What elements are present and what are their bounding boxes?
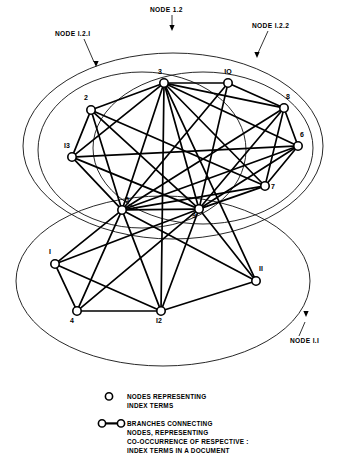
legend-branch-glyph-node-1 <box>98 420 105 427</box>
diagram-canvas: NODE 1.2NODE I.2.INODE I.2.2NODE I.I I23… <box>0 0 346 465</box>
node-4[interactable] <box>73 307 81 315</box>
edge-2-13 <box>74 114 90 153</box>
legend-text-legend-node-1: NODES REPRESENTING <box>127 393 206 400</box>
node-10[interactable] <box>224 79 232 87</box>
callout-label-node-1-2-2: NODE I.2.2 <box>252 22 289 29</box>
node-label-10: IO <box>224 68 232 75</box>
legend-text-legend-branch-1: BRANCHES CONNECTING <box>127 420 213 427</box>
edge-12-11 <box>165 282 252 309</box>
edge-6-13 <box>76 146 294 157</box>
node-3[interactable] <box>160 79 168 87</box>
graph-edges <box>57 83 297 311</box>
edge-13-9 <box>76 159 195 208</box>
edge-6-9 <box>203 148 295 206</box>
edge-6-5 <box>126 147 294 208</box>
legend-text-legend-branch-3: CO-OCCURRENCE OF RESPECTIVE : <box>127 438 249 445</box>
legend-branch-glyph-node-2 <box>117 420 124 427</box>
node-label-9: 9 <box>192 212 196 219</box>
node-label-2: 2 <box>84 94 88 101</box>
legend-text-legend-node-2: INDEX TERMS <box>127 402 174 409</box>
node-label-12: I2 <box>156 317 162 324</box>
node-9[interactable] <box>195 205 203 213</box>
edge-9-12 <box>162 213 197 307</box>
callout-label-node-1-2-1: NODE I.2.I <box>55 30 90 37</box>
node-label-1: I <box>49 248 51 255</box>
callout-label-node-1-1: NODE I.I <box>290 337 319 344</box>
node-label-8: 8 <box>286 93 290 100</box>
edge-8-9 <box>202 111 282 206</box>
edge-1-4 <box>57 268 75 307</box>
legend-text-legend-branch-4: INDEX TERMS IN A DOCUMENT <box>127 447 230 454</box>
edge-2-3 <box>95 84 160 108</box>
legend-node-glyph <box>105 393 112 400</box>
node-label-11: II <box>259 265 263 272</box>
edge-10-5 <box>125 86 226 207</box>
node-11[interactable] <box>252 277 260 285</box>
callout-leader-node-1-2-2 <box>258 31 268 53</box>
callout-leader-node-1-2-1 <box>84 39 94 62</box>
node-12[interactable] <box>157 307 165 315</box>
edge-6-7 <box>268 149 296 183</box>
callout-arrowhead-node-1-1 <box>303 311 308 317</box>
legend-text-legend-branch-2: NODES, REPRESENTING <box>127 429 208 437</box>
node-2[interactable] <box>87 106 95 114</box>
node-label-7: 7 <box>271 183 275 190</box>
edge-10-8 <box>232 85 280 107</box>
node-label-4: 4 <box>70 317 74 324</box>
edge-2-7 <box>95 112 261 185</box>
edge-3-13 <box>75 86 160 155</box>
legend: NODES REPRESENTINGINDEX TERMSBRANCHES CO… <box>98 393 248 454</box>
callout-arrowhead-node-1-2-1 <box>93 61 98 67</box>
node-5[interactable] <box>118 206 126 214</box>
node-label-6: 6 <box>300 131 304 138</box>
edge-8-6 <box>285 112 296 142</box>
node-6[interactable] <box>294 142 302 150</box>
edge-7-9 <box>203 187 261 207</box>
edge-5-9 <box>126 209 195 210</box>
callout-label-node-1-2: NODE 1.2 <box>150 6 183 13</box>
node-13[interactable] <box>68 153 76 161</box>
node-8[interactable] <box>280 104 288 112</box>
node-1[interactable] <box>51 260 59 268</box>
callout-annotations: NODE 1.2NODE I.2.INODE I.2.2NODE I.I <box>55 6 319 344</box>
callout-arrowhead-node-1-2-2 <box>254 52 259 58</box>
node-label-3: 3 <box>158 68 162 75</box>
node-cooccurrence-diagram: NODE 1.2NODE I.2.INODE I.2.2NODE I.I I23… <box>0 0 346 465</box>
node-label-5: 5 <box>125 196 129 203</box>
edge-3-12 <box>161 87 164 307</box>
callout-arrowhead-node-1-2 <box>169 25 174 31</box>
node-label-13: I3 <box>64 142 70 149</box>
callout-leader-node-1-1 <box>299 322 305 336</box>
edge-2-5 <box>92 114 121 206</box>
node-7[interactable] <box>261 182 269 190</box>
